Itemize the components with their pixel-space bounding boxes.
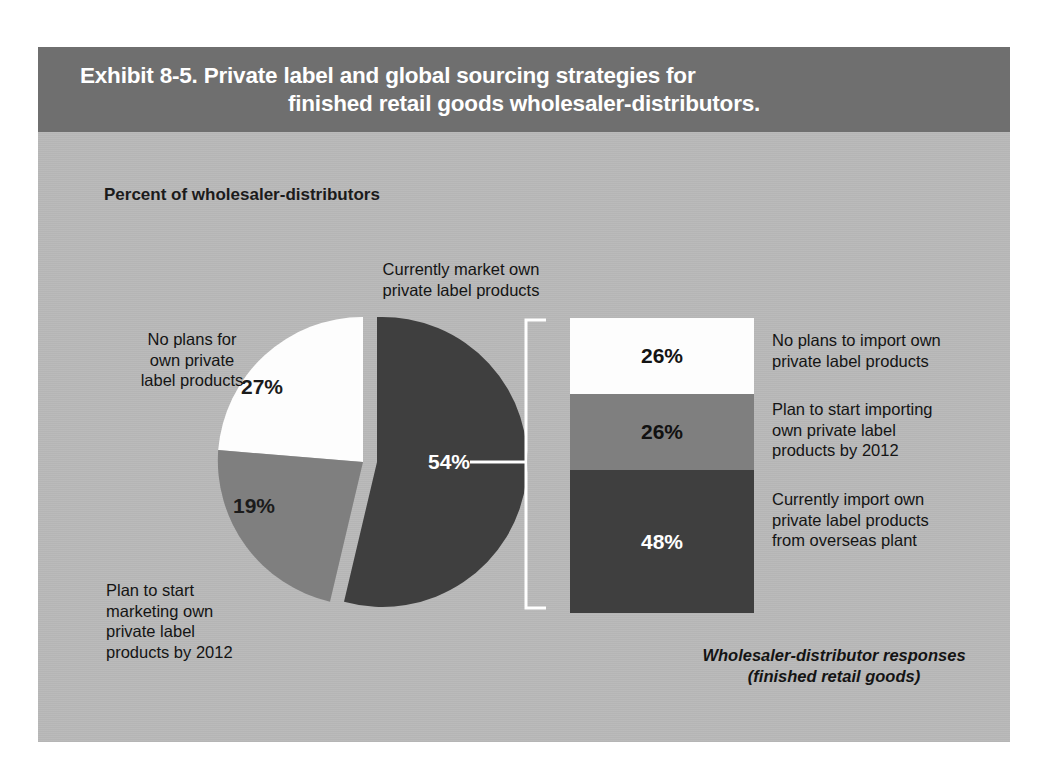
callout-connector (470, 310, 590, 620)
pie-slice-plan-to-start[interactable] (218, 450, 363, 602)
bar-segment-currently-import[interactable]: 48% (570, 470, 754, 613)
pie-value-currently-market: 54% (428, 450, 470, 474)
bar-value-plan-start-import: 26% (641, 420, 683, 444)
exhibit-page: Exhibit 8-5. Private label and global so… (0, 0, 1057, 778)
bar-label-currently-import: Currently import own private label produ… (772, 489, 929, 551)
bar-segment-no-plans-import[interactable]: 26% (570, 318, 754, 394)
stacked-bar-chart: 26% 26% 48% (570, 318, 754, 613)
pie-label-plan-to-start: Plan to start marketing own private labe… (106, 580, 336, 662)
source-note: Wholesaler-distributor responses (finish… (676, 645, 992, 687)
pie-value-plan-to-start: 19% (233, 494, 275, 518)
exhibit-header: Exhibit 8-5. Private label and global so… (38, 47, 1010, 132)
pie-label-currently-market: Currently market own private label produ… (346, 259, 576, 300)
bracket (526, 320, 546, 608)
bar-label-plan-start-import: Plan to start importing own private labe… (772, 399, 933, 461)
exhibit-title-line-2: finished retail goods wholesaler-distrib… (288, 90, 760, 118)
exhibit-title-line-1: Exhibit 8-5. Private label and global so… (72, 62, 695, 90)
pie-label-no-plans: No plans for own private label products (94, 329, 290, 391)
chart-subtitle: Percent of wholesaler-distributors (104, 185, 380, 205)
callout-connector-svg (470, 310, 590, 620)
bar-value-currently-import: 48% (641, 530, 683, 554)
bar-segment-plan-start-import[interactable]: 26% (570, 394, 754, 470)
bar-value-no-plans-import: 26% (641, 344, 683, 368)
bar-label-no-plans-import: No plans to import own private label pro… (772, 330, 941, 371)
